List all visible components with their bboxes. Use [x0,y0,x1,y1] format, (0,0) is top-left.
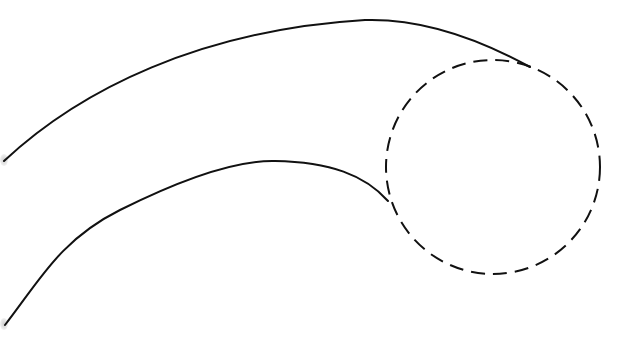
diagram-svg [0,0,634,343]
upper-curve [4,20,530,161]
lower-curve [5,161,388,325]
dashed-circle [386,60,600,274]
